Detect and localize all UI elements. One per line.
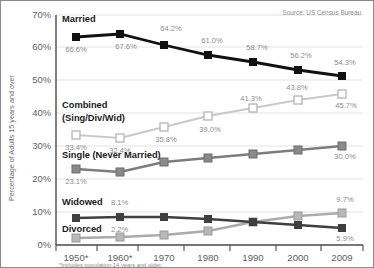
data-point-marker bbox=[294, 66, 302, 74]
footnote-text: *Includes population 14 years and older. bbox=[59, 262, 163, 268]
x-tick-label-1990: 1990 bbox=[242, 252, 263, 263]
series-label-divorced: Divorced bbox=[62, 224, 102, 234]
series-label-married: Married bbox=[62, 14, 96, 24]
data-point-marker bbox=[160, 123, 168, 131]
data-point-marker bbox=[204, 51, 212, 59]
data-point-marker bbox=[338, 72, 346, 80]
data-point-marker bbox=[160, 158, 168, 166]
series-label-widowed: Widowed bbox=[62, 197, 103, 207]
data-point-marker bbox=[116, 30, 124, 38]
data-point-marker bbox=[249, 150, 257, 158]
series-label-combined-sub: (Sing/Div/Wid) bbox=[62, 113, 125, 123]
data-point-marker bbox=[338, 224, 346, 232]
data-point-marker bbox=[160, 231, 168, 239]
point-label-combined-2000: 43.8% bbox=[286, 83, 308, 92]
data-point-marker bbox=[338, 209, 346, 217]
y-tick-0: 0% bbox=[37, 239, 51, 250]
series-label-single: Single (Never Married) bbox=[62, 150, 161, 160]
data-point-marker bbox=[160, 213, 168, 221]
y-tick-60: 60% bbox=[32, 41, 51, 52]
chart-container: 70% 60% 50% 40% 30% 20% 10% 0% Percentag… bbox=[0, 0, 374, 268]
x-tick-marks bbox=[56, 245, 363, 251]
point-label-combined-1980: 39.0% bbox=[199, 125, 221, 134]
point-label-married-2000: 56.2% bbox=[290, 51, 312, 60]
data-point-marker bbox=[204, 227, 212, 235]
point-label-widowed-1950: 8.1% bbox=[111, 198, 129, 207]
data-point-marker bbox=[72, 165, 80, 173]
point-label-combined-1990: 41.3% bbox=[240, 94, 262, 103]
data-point-marker bbox=[294, 221, 302, 229]
point-label-combined-1970: 35.8% bbox=[155, 135, 177, 144]
y-tick-20: 20% bbox=[32, 173, 51, 184]
point-label-married-1960: 67.6% bbox=[115, 42, 137, 51]
data-point-marker bbox=[116, 213, 124, 221]
y-axis-title: Percentage of Adults 15 years and over bbox=[7, 75, 16, 201]
data-point-marker bbox=[204, 215, 212, 223]
point-label-married-1980: 61.0% bbox=[201, 36, 223, 45]
data-point-marker bbox=[160, 41, 168, 49]
data-point-marker bbox=[249, 58, 257, 66]
data-point-marker bbox=[294, 212, 302, 220]
data-point-marker bbox=[338, 142, 346, 150]
line-chart-svg: 70% 60% 50% 40% 30% 20% 10% 0% Percentag… bbox=[1, 1, 374, 268]
data-point-marker bbox=[72, 33, 80, 41]
data-point-marker bbox=[294, 146, 302, 154]
data-point-marker bbox=[204, 154, 212, 162]
x-tick-label-1980: 1980 bbox=[197, 252, 218, 263]
y-tick-50: 50% bbox=[32, 74, 51, 85]
point-label-divorced-1950: 2.2% bbox=[111, 225, 129, 234]
data-point-marker bbox=[72, 131, 80, 139]
data-point-marker bbox=[72, 214, 80, 222]
point-label-combined-2009: 45.7% bbox=[335, 101, 357, 110]
data-point-marker bbox=[116, 168, 124, 176]
series-married: 66.6% 67.6% 64.2% 61.0% 58.7% 56.2% 54.3… bbox=[65, 24, 356, 80]
y-tick-40: 40% bbox=[32, 107, 51, 118]
point-label-married-1950: 66.6% bbox=[65, 45, 87, 54]
point-label-married-1970: 64.2% bbox=[160, 24, 182, 33]
y-tick-10: 10% bbox=[32, 206, 51, 217]
data-point-marker bbox=[249, 104, 257, 112]
source-credit: Source: US Census Bureau bbox=[282, 9, 361, 16]
x-tick-label-2000: 2000 bbox=[287, 252, 308, 263]
data-point-marker bbox=[72, 234, 80, 242]
data-point-marker bbox=[116, 134, 124, 142]
data-point-marker bbox=[294, 96, 302, 104]
data-point-marker bbox=[249, 218, 257, 226]
point-label-widowed-2009: 5.9% bbox=[336, 234, 354, 243]
data-point-marker bbox=[116, 233, 124, 241]
data-point-marker bbox=[338, 90, 346, 98]
point-label-married-1990: 58.7% bbox=[246, 43, 268, 52]
point-label-married-2009: 54.3% bbox=[334, 58, 356, 67]
x-tick-label-2009: 2009 bbox=[331, 252, 352, 263]
point-label-single-1950: 23.1% bbox=[65, 177, 87, 186]
series-label-combined: Combined bbox=[62, 100, 108, 110]
data-point-marker bbox=[204, 112, 212, 120]
y-tick-30: 30% bbox=[32, 140, 51, 151]
point-label-divorced-2009: 9.7% bbox=[336, 195, 354, 204]
point-label-single-2009: 30.0% bbox=[334, 152, 356, 161]
y-tick-70: 70% bbox=[32, 9, 51, 20]
